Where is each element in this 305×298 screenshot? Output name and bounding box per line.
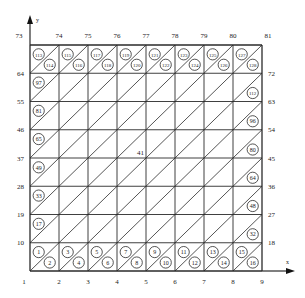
element-label: 13 (207, 246, 218, 257)
element-number: 11 (181, 249, 187, 255)
element-diagonal (30, 215, 59, 243)
mesh-diagram: yx 1234567897374757677787980811019283746… (0, 0, 305, 298)
element-label: 122 (160, 59, 171, 70)
node-label-top: 75 (85, 32, 93, 40)
element-number: 115 (64, 53, 72, 58)
element-number: 121 (151, 53, 159, 58)
element-label: 15 (236, 246, 247, 257)
element-label: 112 (247, 87, 258, 98)
element-number: 118 (104, 63, 112, 68)
element-number: 17 (36, 221, 42, 227)
node-label-left: 55 (17, 98, 25, 106)
node-label-right: 54 (268, 126, 276, 134)
element-number: 8 (135, 260, 138, 266)
element-label: 128 (247, 59, 258, 70)
node-label-bottom: 1 (22, 278, 26, 286)
element-number: 81 (36, 108, 42, 114)
element-number: 33 (36, 193, 42, 199)
element-number: 116 (75, 63, 83, 68)
element-diagonal (117, 73, 146, 101)
element-diagonal (146, 215, 175, 243)
element-diagonal (175, 130, 204, 158)
element-number: 13 (210, 249, 216, 255)
element-label: 10 (160, 257, 171, 268)
node-label-top: 77 (143, 32, 151, 40)
element-diagonal (30, 243, 59, 271)
element-diagonal (59, 243, 88, 271)
element-diagonal (233, 102, 262, 130)
element-label: 8 (131, 257, 142, 268)
node-label-left: 46 (17, 126, 25, 134)
element-diagonal (146, 243, 175, 271)
element-label: 123 (178, 49, 189, 60)
element-number: 112 (249, 91, 257, 96)
node-label-left: 10 (17, 239, 25, 247)
element-number: 119 (122, 53, 130, 58)
element-label: 2 (44, 257, 55, 268)
element-label: 80 (247, 144, 258, 155)
x-axis-arrow-icon (286, 268, 295, 274)
element-diagonal (117, 102, 146, 130)
element-number: 126 (220, 63, 228, 68)
node-label-right: 36 (268, 183, 276, 191)
element-number: 96 (250, 118, 256, 124)
element-diagonal (88, 102, 117, 130)
node-label-right: 72 (268, 70, 276, 78)
node-label-left: 28 (17, 183, 25, 191)
element-label: 120 (131, 59, 142, 70)
node-label-left: 64 (17, 70, 25, 78)
element-diagonal (146, 102, 175, 130)
node-label-left: 19 (17, 211, 25, 219)
node-label-bottom: 8 (231, 278, 235, 286)
element-diagonal (59, 45, 88, 73)
node-label-center: 41 (137, 149, 145, 157)
node-label-right: 63 (268, 98, 276, 106)
element-number: 127 (238, 53, 246, 58)
element-diagonal (117, 243, 146, 271)
element-label: 48 (247, 200, 258, 211)
element-label: 113 (33, 49, 44, 60)
node-label-top: 74 (56, 32, 64, 40)
element-diagonal (30, 130, 59, 158)
element-diagonal (146, 73, 175, 101)
node-label-top: 80 (230, 32, 238, 40)
element-label: 3 (62, 246, 73, 257)
element-label: 32 (247, 229, 258, 240)
element-number: 113 (35, 53, 43, 58)
node-label-top: 73 (16, 32, 24, 40)
node-label-right: 45 (268, 155, 276, 163)
element-diagonal (175, 186, 204, 214)
node-label-right: 18 (268, 239, 276, 247)
element-number: 64 (250, 175, 256, 181)
element-number: 123 (180, 53, 188, 58)
element-diagonal (175, 243, 204, 271)
element-label: 124 (189, 59, 200, 70)
element-diagonal (233, 130, 262, 158)
element-number: 124 (191, 63, 199, 68)
element-diagonal (175, 158, 204, 186)
node-label-top: 78 (172, 32, 180, 40)
element-diagonal (59, 215, 88, 243)
element-number: 9 (153, 249, 156, 255)
element-diagonal (88, 130, 117, 158)
element-number: 16 (250, 260, 256, 266)
node-label-bottom: 7 (202, 278, 206, 286)
element-label: 17 (33, 218, 44, 229)
element-diagonal (88, 45, 117, 73)
element-diagonal (117, 215, 146, 243)
node-label-right: 27 (268, 211, 276, 219)
element-diagonal (59, 102, 88, 130)
element-diagonal (204, 45, 233, 73)
element-number: 12 (192, 260, 198, 266)
element-label: 6 (102, 257, 113, 268)
element-label: 1 (33, 246, 44, 257)
element-label: 9 (149, 246, 160, 257)
element-diagonal (88, 186, 117, 214)
element-diagonal (233, 215, 262, 243)
element-label: 116 (73, 59, 84, 70)
element-number: 125 (209, 53, 217, 58)
element-diagonal (233, 45, 262, 73)
element-diagonal (204, 158, 233, 186)
element-label: 33 (33, 190, 44, 201)
element-diagonal (59, 73, 88, 101)
